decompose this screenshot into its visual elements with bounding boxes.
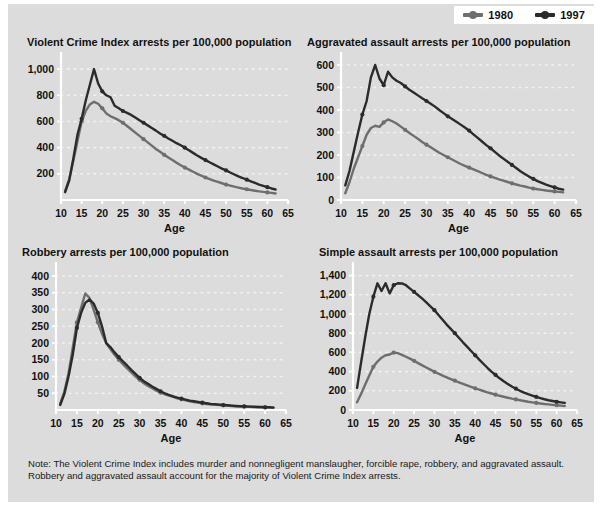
data-point (531, 177, 535, 181)
data-point (179, 397, 183, 401)
x-tick-label: 20 (388, 417, 400, 429)
data-point (488, 174, 492, 178)
x-tick-label: 65 (282, 207, 294, 219)
x-tick-label: 50 (217, 417, 229, 429)
x-tick-label: 35 (442, 207, 454, 219)
data-point (553, 189, 557, 193)
y-tick-label: 400 (328, 365, 346, 377)
chart-aggravated-assault: Aggravated assault arrests per 100,000 p… (301, 34, 594, 244)
series-line-1997 (65, 69, 275, 192)
y-tick-label: 200 (31, 337, 49, 349)
x-tick-label: 25 (117, 207, 129, 219)
legend-item-1997: 1997 (535, 9, 585, 21)
data-point (392, 283, 396, 287)
data-point (245, 178, 249, 182)
x-tick-label: 65 (570, 207, 582, 219)
data-point (446, 155, 450, 159)
x-tick-label: 35 (158, 207, 170, 219)
y-tick-label: 600 (316, 59, 334, 71)
x-tick-label: 10 (50, 417, 62, 429)
data-point (141, 121, 145, 125)
data-point (96, 311, 100, 315)
x-tick-label: 10 (335, 207, 347, 219)
x-axis-label: Age (164, 222, 185, 234)
y-tick-label: 600 (36, 115, 54, 127)
legend-swatch-1980 (463, 13, 483, 17)
note-line-2: Robbery and aggravated assault account f… (28, 470, 578, 482)
data-point (382, 120, 386, 124)
y-tick-label: 0 (328, 194, 334, 206)
x-tick-label: 45 (197, 417, 209, 429)
x-tick-label: 65 (571, 417, 583, 429)
y-tick-label: 400 (316, 104, 334, 116)
data-point (555, 400, 559, 404)
data-point (371, 295, 375, 299)
data-point (141, 137, 145, 141)
chart-robbery: Robbery arrests per 100,000 population 1… (8, 244, 301, 454)
x-tick-label: 45 (485, 207, 497, 219)
y-tick-label: 250 (31, 320, 49, 332)
x-tick-label: 20 (378, 207, 390, 219)
data-point (467, 166, 471, 170)
data-point (360, 144, 364, 148)
data-point (221, 403, 225, 407)
x-tick-label: 25 (113, 417, 125, 429)
x-tick-label: 15 (71, 417, 83, 429)
y-tick-label: 800 (36, 89, 54, 101)
chart-canvas-simple-assault: 10152025303540455055606502004006008001,0… (301, 244, 594, 454)
x-tick-label: 10 (347, 417, 359, 429)
y-tick-label: 150 (31, 353, 49, 365)
figure-note: Note: The Violent Crime Index includes m… (28, 458, 578, 483)
x-tick-label: 60 (262, 207, 274, 219)
x-tick-label: 65 (280, 417, 292, 429)
data-point (100, 106, 104, 110)
y-tick-label: 600 (328, 346, 346, 358)
legend-label-1997: 1997 (560, 9, 585, 21)
data-point (453, 331, 457, 335)
data-point (265, 190, 269, 194)
y-tick-label: 500 (316, 81, 334, 93)
y-tick-label: 400 (36, 141, 54, 153)
chart-legend: 1980 1997 (454, 6, 594, 24)
y-tick-label: 50 (37, 387, 49, 399)
x-tick-label: 45 (490, 417, 502, 429)
x-tick-label: 55 (527, 207, 539, 219)
data-point (183, 165, 187, 169)
data-point (162, 134, 166, 138)
data-point (412, 359, 416, 363)
x-tick-label: 40 (463, 207, 475, 219)
x-axis-label: Age (455, 432, 476, 444)
data-point (553, 185, 557, 189)
data-point (534, 395, 538, 399)
data-point (467, 129, 471, 133)
x-tick-label: 40 (179, 207, 191, 219)
x-tick-label: 30 (429, 417, 441, 429)
data-point (203, 175, 207, 179)
y-tick-label: 800 (328, 327, 346, 339)
x-tick-label: 35 (155, 417, 167, 429)
series-line-1997 (357, 283, 565, 403)
y-tick-label: 1,200 (320, 288, 346, 300)
x-tick-label: 25 (408, 417, 420, 429)
data-point (200, 401, 204, 405)
y-tick-label: 100 (316, 171, 334, 183)
figure-root: 1980 1997 Violent Crime Index arrests pe… (0, 0, 602, 512)
x-tick-label: 55 (238, 417, 250, 429)
data-point (162, 153, 166, 157)
x-tick-label: 15 (76, 207, 88, 219)
data-point (488, 146, 492, 150)
data-point (265, 185, 269, 189)
data-point (100, 89, 104, 93)
chart-grid: Violent Crime Index arrests per 100,000 … (8, 34, 594, 454)
data-point (493, 373, 497, 377)
x-tick-label: 40 (176, 417, 188, 429)
data-point (392, 350, 396, 354)
data-point (75, 326, 79, 330)
data-point (382, 83, 386, 87)
data-point (242, 404, 246, 408)
x-tick-label: 30 (134, 417, 146, 429)
data-point (371, 365, 375, 369)
data-point (121, 121, 125, 125)
data-point (446, 114, 450, 118)
y-tick-label: 200 (328, 384, 346, 396)
